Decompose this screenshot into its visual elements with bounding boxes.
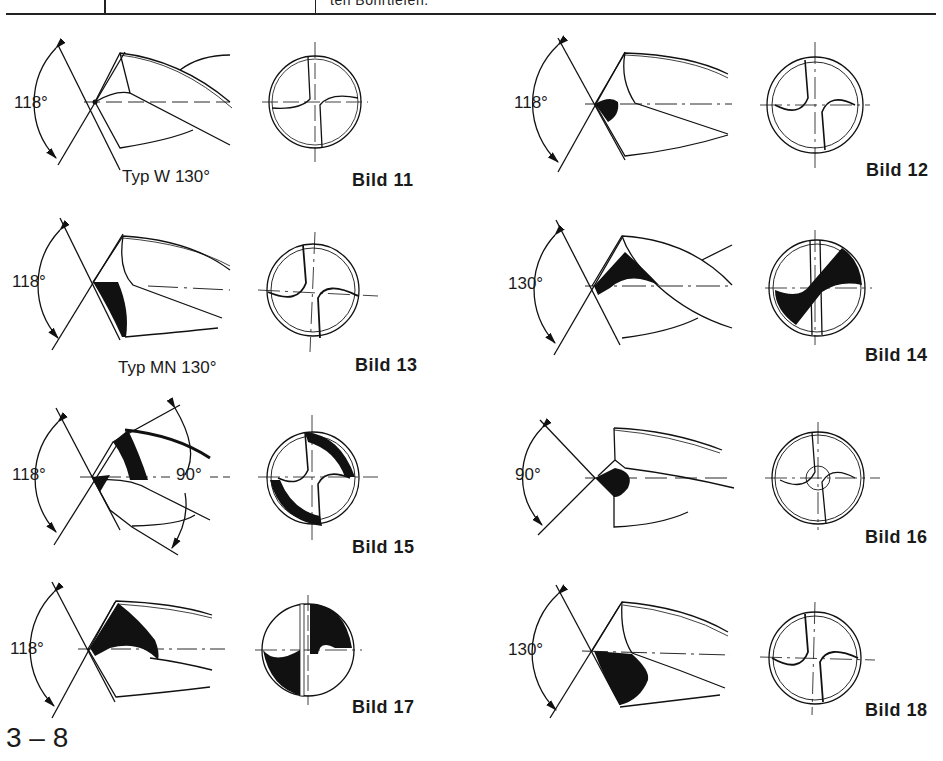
figure-caption: Bild 14	[865, 345, 928, 366]
figure-caption: Bild 17	[352, 697, 415, 718]
drill-point-drawing	[470, 570, 943, 761]
point-angle-label: 130°	[508, 640, 543, 660]
figure-caption: Bild 12	[866, 160, 929, 181]
point-angle-label: 90°	[515, 465, 541, 485]
point-angle-label: 118°	[514, 93, 548, 113]
figure-caption: Bild 18	[865, 700, 928, 721]
point-angle-label: 130°	[508, 274, 543, 294]
figure-caption: Bild 16	[865, 527, 928, 548]
figure-bild-14: 130° Bild 14	[470, 200, 943, 380]
table-header-border: ten Bohrtiefen.	[0, 0, 943, 20]
secondary-angle-label: 90°	[176, 465, 202, 485]
column-divider	[315, 0, 316, 15]
figure-bild-15: 118° 90° Bild 15	[0, 380, 470, 570]
drill-point-drawing	[0, 570, 470, 761]
figure-bild-16: 90° Bild 16	[470, 380, 943, 570]
column-divider	[104, 0, 106, 15]
point-angle-label: 118°	[12, 272, 46, 292]
figure-bild-12: 118° Bild 12	[470, 30, 943, 200]
figure-bild-18: 130° Bild 18	[470, 570, 943, 761]
drill-point-drawing	[0, 200, 470, 380]
figure-caption: Bild 15	[352, 537, 415, 558]
type-note: Typ MN 130°	[118, 358, 216, 378]
figure-caption: Bild 13	[355, 355, 418, 376]
figure-caption: Bild 11	[352, 170, 414, 191]
figure-bild-17: 118° Bild 17	[0, 570, 470, 761]
cut-off-text: ten Bohrtiefen.	[330, 0, 429, 8]
header-rule	[6, 13, 936, 15]
point-angle-label: 118°	[14, 93, 48, 113]
point-angle-label: 118°	[10, 639, 44, 659]
point-angle-label: 118°	[12, 465, 46, 485]
figure-bild-11: 118° Typ W 130° Bild 11	[0, 30, 470, 200]
page-number: 3 – 8	[6, 722, 68, 754]
type-note: Typ W 130°	[122, 167, 210, 187]
figure-bild-13: 118° Typ MN 130° Bild 13	[0, 200, 470, 380]
